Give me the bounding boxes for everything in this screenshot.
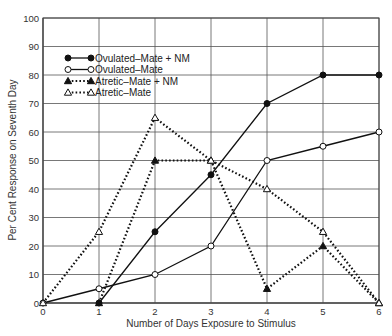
x-tick-label: 3 (208, 306, 213, 317)
data-point-marker (263, 285, 270, 291)
y-tick-label: 70 (28, 98, 39, 109)
data-point-marker (65, 67, 71, 73)
data-point-marker (263, 185, 270, 191)
legend-entry-label: Ovulated–Mate + NM (95, 53, 190, 64)
data-point-marker (376, 129, 382, 135)
series-2 (95, 157, 382, 306)
y-tick-label: 30 (28, 212, 39, 223)
data-point-marker (88, 67, 94, 73)
legend-entry-label: Ovulated–Mate (95, 64, 163, 75)
y-tick-label: 0 (34, 298, 39, 309)
legend-entry-label: Atretic–Mate + NM (95, 76, 178, 87)
data-point-marker (319, 242, 326, 248)
x-tick-label: 4 (264, 306, 269, 317)
data-point-marker (96, 286, 102, 292)
data-point-marker (64, 89, 71, 95)
x-axis-ticks: 0123456 (40, 306, 381, 317)
data-point-marker (152, 229, 158, 235)
x-tick-label: 6 (376, 306, 381, 317)
y-axis-ticks: 0102030405060708090100 (23, 13, 39, 309)
x-tick-label: 1 (96, 306, 101, 317)
x-tick-label: 2 (152, 306, 157, 317)
y-tick-label: 10 (28, 269, 39, 280)
y-tick-label: 50 (28, 155, 39, 166)
data-point-marker (88, 55, 94, 61)
data-point-marker (151, 157, 158, 163)
line-chart: 0102030405060708090100 0123456 Per Cent … (0, 0, 392, 336)
legend-entry-label: Atretic–Mate (95, 87, 152, 98)
data-point-marker (319, 228, 326, 234)
y-axis-label: Per Cent Response on Seventh Day (7, 79, 18, 240)
data-point-marker (208, 243, 214, 249)
data-point-marker (320, 143, 326, 149)
data-point-marker (152, 272, 158, 278)
x-axis-label: Number of Days Exposure to Stimulus (126, 318, 296, 329)
y-tick-label: 90 (28, 41, 39, 52)
data-point-marker (264, 101, 270, 107)
data-point-marker (320, 72, 326, 78)
data-point-marker (64, 77, 71, 83)
y-tick-label: 20 (28, 241, 39, 252)
y-tick-label: 40 (28, 184, 39, 195)
y-tick-label: 60 (28, 127, 39, 138)
data-point-marker (95, 228, 102, 234)
x-tick-label: 0 (40, 306, 45, 317)
data-point-marker (151, 114, 158, 120)
data-point-marker (65, 55, 71, 61)
data-point-marker (208, 172, 214, 178)
x-tick-label: 5 (320, 306, 325, 317)
data-point-marker (264, 158, 270, 164)
y-tick-label: 80 (28, 70, 39, 81)
data-point-marker (376, 72, 382, 78)
y-tick-label: 100 (23, 13, 39, 24)
